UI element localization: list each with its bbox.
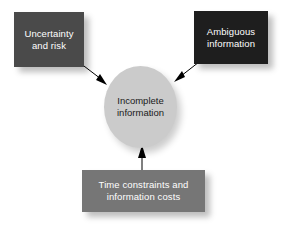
arrow-shaft: [181, 62, 199, 76]
arrow-head: [96, 74, 107, 85]
node-uncertainty-and-risk: Uncertainty and risk: [14, 12, 84, 67]
node-incomplete-information: Incomplete information: [104, 66, 177, 148]
node-label: Uncertainty and risk: [21, 28, 76, 52]
arrow-ambiguous-to-center: [174, 62, 199, 82]
node-ambiguous-information: Ambiguous information: [194, 11, 268, 64]
node-label: Ambiguous information: [204, 26, 258, 50]
diagram-canvas: Uncertainty and risk Ambiguous informati…: [0, 0, 284, 226]
node-time-constraints-and-information-costs: Time constraints and information costs: [82, 170, 205, 212]
arrow-uncertainty-to-center: [80, 63, 107, 85]
node-label: Incomplete information: [117, 95, 164, 119]
arrow-time-costs-to-center: [138, 145, 146, 170]
node-label: Time constraints and information costs: [96, 179, 192, 203]
arrow-head: [174, 71, 185, 82]
